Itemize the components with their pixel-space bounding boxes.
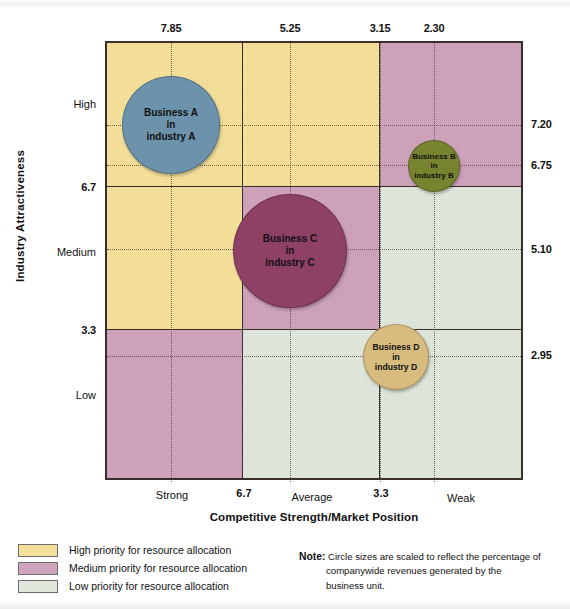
y-category-low: Low bbox=[44, 389, 96, 401]
scan-artifact-bottom bbox=[0, 601, 570, 609]
right-tick-720: 7.20 bbox=[531, 118, 552, 130]
legend-swatch-medium-icon bbox=[18, 562, 58, 575]
bubble-business-b[interactable]: Business B in industry B bbox=[408, 140, 460, 192]
y-axis-title: Industry Attractiveness bbox=[14, 150, 26, 282]
cell-medium-weak[interactable] bbox=[380, 187, 521, 330]
legend: High priority for resource allocation Me… bbox=[18, 541, 247, 595]
ge-mckinsey-matrix-figure: 7.85 5.25 3.15 2.30 7.20 6.75 5.10 2.95 … bbox=[0, 0, 570, 609]
cell-medium-strong[interactable] bbox=[107, 187, 243, 330]
x-axis-title: Competitive Strength/Market Position bbox=[210, 511, 419, 523]
bubble-c-line3: industry C bbox=[265, 257, 314, 269]
y-category-medium: Medium bbox=[34, 246, 96, 258]
x-tick-33: 3.3 bbox=[373, 487, 388, 499]
bubble-a-line3: industry A bbox=[146, 131, 195, 143]
bubble-d-line2: in bbox=[392, 352, 400, 362]
bubble-b-line1: Business B bbox=[412, 152, 456, 161]
bubble-business-a[interactable]: Business A in industry A bbox=[122, 76, 220, 174]
note-label: Note: bbox=[299, 551, 325, 562]
right-tick-510: 5.10 bbox=[531, 243, 552, 255]
legend-swatch-low-icon bbox=[18, 580, 58, 593]
cell-low-average[interactable] bbox=[243, 330, 380, 478]
legend-label-medium: Medium priority for resource allocation bbox=[69, 562, 247, 574]
x-category-weak: Weak bbox=[447, 492, 475, 504]
scan-artifact-top bbox=[0, 0, 570, 8]
note-line3: business unit. bbox=[299, 579, 549, 593]
x-category-strong: Strong bbox=[156, 489, 188, 501]
right-tick-295: 2.95 bbox=[531, 349, 552, 361]
legend-item-medium[interactable]: Medium priority for resource allocation bbox=[18, 559, 247, 577]
bubble-d-line3: industry D bbox=[375, 362, 418, 372]
y-category-high: High bbox=[44, 98, 96, 110]
legend-item-low[interactable]: Low priority for resource allocation bbox=[18, 577, 247, 595]
bubble-c-line1: Business C bbox=[263, 233, 317, 245]
guide-horizontal-295 bbox=[107, 356, 521, 357]
legend-item-high[interactable]: High priority for resource allocation bbox=[18, 541, 247, 559]
top-tick-315: 3.15 bbox=[370, 22, 391, 34]
top-tick-785: 7.85 bbox=[161, 22, 182, 34]
bubble-b-line3: industry B bbox=[414, 171, 454, 180]
y-tick-67: 6.7 bbox=[56, 181, 96, 193]
legend-label-high: High priority for resource allocation bbox=[69, 544, 231, 556]
x-category-average: Average bbox=[292, 491, 333, 503]
legend-label-low: Low priority for resource allocation bbox=[69, 580, 229, 592]
matrix-plot-area: Business A in industry A Business B in i… bbox=[105, 41, 523, 480]
bubble-a-line2: in bbox=[167, 119, 176, 131]
top-tick-230: 2.30 bbox=[424, 22, 445, 34]
bubble-business-c[interactable]: Business C in industry C bbox=[233, 194, 347, 308]
y-tick-33: 3.3 bbox=[56, 324, 96, 336]
note-line2: companywide revenues generated by the bbox=[299, 564, 549, 578]
cell-low-strong[interactable] bbox=[107, 330, 243, 478]
bubble-a-line1: Business A bbox=[144, 107, 198, 119]
bubble-b-line2: in bbox=[430, 161, 437, 170]
guide-vertical-315 bbox=[380, 43, 381, 482]
guide-vertical-230 bbox=[434, 43, 435, 482]
top-tick-525: 5.25 bbox=[280, 22, 301, 34]
right-tick-675: 6.75 bbox=[531, 159, 552, 171]
bubble-business-d[interactable]: Business D in industry D bbox=[363, 324, 429, 390]
bubble-c-line2: in bbox=[286, 245, 295, 257]
note-line1: Circle sizes are scaled to reflect the p… bbox=[328, 551, 541, 562]
bubble-d-line1: Business D bbox=[373, 342, 420, 352]
x-tick-67: 6.7 bbox=[236, 487, 251, 499]
note-block: Note: Circle sizes are scaled to reflect… bbox=[299, 549, 549, 593]
legend-swatch-high-icon bbox=[18, 544, 58, 557]
